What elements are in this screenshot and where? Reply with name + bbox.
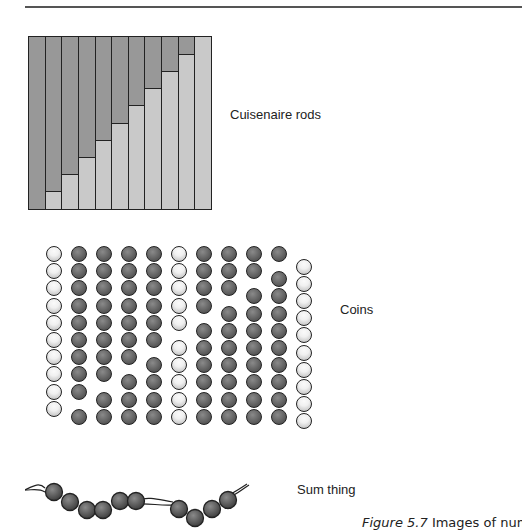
- figure-caption: Figure 5.7 Images of number bonds for 10: [362, 515, 522, 530]
- dark-coin: [221, 409, 237, 425]
- dark-coin: [196, 263, 212, 279]
- white-coin: [171, 392, 187, 408]
- rod-column: [144, 37, 161, 209]
- dark-coin: [221, 340, 237, 356]
- dark-coin: [196, 374, 212, 390]
- rod-column: [29, 37, 45, 209]
- dark-coin: [196, 340, 212, 356]
- rod-column: [78, 37, 95, 209]
- dark-coin: [121, 263, 137, 279]
- white-coin: [296, 396, 312, 412]
- dark-coin: [71, 332, 87, 348]
- rod-column: [178, 37, 195, 209]
- white-coin: [46, 349, 62, 365]
- dark-coin: [221, 392, 237, 408]
- white-coin: [296, 379, 312, 395]
- dark-coin: [121, 392, 137, 408]
- dark-coin: [96, 315, 112, 331]
- rod-dark-segment: [79, 37, 95, 157]
- white-coin: [296, 293, 312, 309]
- rod-column: [194, 37, 211, 209]
- dark-coin: [221, 306, 237, 322]
- dark-coin: [196, 409, 212, 425]
- rod-light-segment: [112, 123, 128, 210]
- white-coin: [296, 362, 312, 378]
- cuisenaire-rods-diagram: [28, 36, 212, 210]
- dark-coin: [121, 374, 137, 390]
- dark-coin: [196, 392, 212, 408]
- white-coin: [46, 332, 62, 348]
- dark-coin: [146, 409, 162, 425]
- rod-dark-segment: [96, 37, 112, 140]
- white-coin: [171, 246, 187, 262]
- figure-caption-text: Images of number bonds for 10: [432, 515, 522, 530]
- dark-coin: [146, 357, 162, 373]
- dark-coin: [71, 246, 87, 262]
- white-coin: [171, 340, 187, 356]
- dark-coin: [271, 374, 287, 390]
- dark-coin: [121, 349, 137, 365]
- dark-coin: [121, 298, 137, 314]
- rod-dark-segment: [112, 37, 128, 123]
- dark-coin: [96, 366, 112, 382]
- white-coin: [171, 374, 187, 390]
- dark-coin: [246, 374, 262, 390]
- white-coin: [46, 298, 62, 314]
- rods-label: Cuisenaire rods: [230, 107, 321, 122]
- dark-coin: [71, 280, 87, 296]
- dark-coin: [221, 263, 237, 279]
- white-coin: [46, 384, 62, 400]
- dark-coin: [71, 263, 87, 279]
- dark-coin: [96, 280, 112, 296]
- dark-coin: [271, 288, 287, 304]
- rod-light-segment: [79, 157, 95, 209]
- rod-dark-segment: [179, 37, 195, 54]
- top-rule: [25, 6, 522, 8]
- dark-coin: [271, 306, 287, 322]
- rod-light-segment: [145, 88, 161, 209]
- dark-coin: [121, 246, 137, 262]
- dark-coin: [196, 357, 212, 373]
- dark-coin: [246, 263, 262, 279]
- dark-coin: [96, 246, 112, 262]
- dark-coin: [71, 349, 87, 365]
- rod-column: [161, 37, 178, 209]
- white-coin: [296, 345, 312, 361]
- dark-coin: [196, 298, 212, 314]
- dark-coin: [246, 246, 262, 262]
- white-coin: [46, 280, 62, 296]
- dark-coin: [246, 392, 262, 408]
- dark-coin: [71, 315, 87, 331]
- dark-coin: [221, 323, 237, 339]
- white-coin: [171, 409, 187, 425]
- dark-coin: [71, 366, 87, 382]
- coins-label: Coins: [340, 302, 373, 317]
- dark-coin: [271, 323, 287, 339]
- white-coin: [171, 298, 187, 314]
- rod-light-segment: [162, 71, 178, 209]
- dark-coin: [271, 271, 287, 287]
- rod-column: [128, 37, 145, 209]
- dark-coin: [71, 384, 87, 400]
- white-coin: [296, 276, 312, 292]
- dark-coin: [146, 374, 162, 390]
- dark-coin: [146, 263, 162, 279]
- white-coin: [46, 263, 62, 279]
- rod-dark-segment: [145, 37, 161, 88]
- white-coin: [171, 315, 187, 331]
- rod-light-segment: [96, 140, 112, 209]
- figure-number: Figure 5.7: [362, 515, 428, 530]
- dark-coin: [96, 392, 112, 408]
- dark-coin: [96, 332, 112, 348]
- dark-coin: [146, 332, 162, 348]
- dark-coin: [121, 315, 137, 331]
- dark-coin: [221, 246, 237, 262]
- white-coin: [171, 263, 187, 279]
- sum-thing-label: Sum thing: [297, 482, 356, 497]
- dark-coin: [271, 340, 287, 356]
- white-coin: [296, 327, 312, 343]
- rod-dark-segment: [129, 37, 145, 105]
- rod-light-segment: [46, 191, 62, 209]
- rod-dark-segment: [62, 37, 78, 174]
- dark-coin: [196, 280, 212, 296]
